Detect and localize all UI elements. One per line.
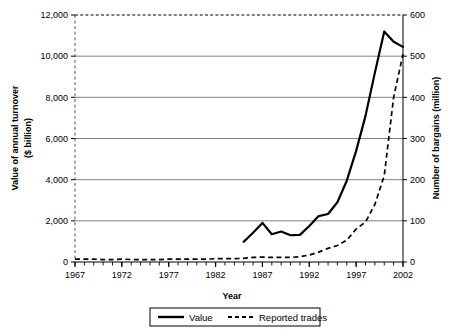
y-axis-left-tick-label: 8,000 <box>45 93 68 103</box>
y-axis-right-tick-label: 200 <box>410 175 425 185</box>
y-axis-left-tick-label: 6,000 <box>45 134 68 144</box>
y-axis-left-tick-label: 12,000 <box>40 10 68 20</box>
y-axis-right-tick-label: 100 <box>410 216 425 226</box>
y-axis-left-tick-label: 10,000 <box>40 51 68 61</box>
x-axis-tick-label: 1967 <box>65 270 85 280</box>
y-axis-left-tick-label: 0 <box>63 257 68 267</box>
turnover-bargains-line-chart: 02,0004,0006,0008,00010,00012,000 010020… <box>0 0 449 332</box>
chart-legend: Value Reported trades <box>150 308 327 326</box>
y-axis-right-tick-label: 300 <box>410 134 425 144</box>
legend-label-value: Value <box>189 312 213 323</box>
y-axis-right-tick-label: 400 <box>410 93 425 103</box>
x-axis-tick-label: 1992 <box>299 270 319 280</box>
legend-label-reported-trades: Reported trades <box>259 312 327 323</box>
x-axis-tick-label: 1982 <box>206 270 226 280</box>
x-axis-tick-label: 1987 <box>252 270 272 280</box>
chart-figure: 02,0004,0006,0008,00010,00012,000 010020… <box>0 0 449 332</box>
y-axis-right-ticks: 0100200300400500600 <box>403 10 425 267</box>
x-axis-tick-label: 2002 <box>393 270 413 280</box>
x-axis-title: Year <box>222 291 242 301</box>
y-axis-right-tick-label: 0 <box>410 257 415 267</box>
y-axis-left-title-line2: ($ billion) <box>23 118 33 158</box>
x-axis-tick-label: 1997 <box>346 270 366 280</box>
y-axis-left-ticks: 02,0004,0006,0008,00010,00012,000 <box>40 10 75 267</box>
x-axis-tick-label: 1977 <box>159 270 179 280</box>
y-axis-left-tick-label: 4,000 <box>45 175 68 185</box>
x-axis-major-ticks: 19671972197719821987199219972002 <box>65 262 413 280</box>
y-axis-left-title-line1: Value of annual turnover <box>10 85 20 191</box>
y-axis-right-title: Number of bargains (million) <box>431 77 441 200</box>
y-axis-left-tick-label: 2,000 <box>45 216 68 226</box>
y-axis-right-tick-label: 600 <box>410 10 425 20</box>
y-axis-right-tick-label: 500 <box>410 51 425 61</box>
x-axis-tick-label: 1972 <box>112 270 132 280</box>
